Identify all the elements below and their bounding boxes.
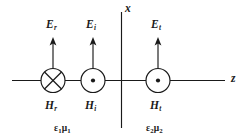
transmitted-h-label: Ht [150,100,161,112]
medium-2-mu-subscript: 2 [159,127,163,134]
medium-2-label: ε2μ2 [146,124,163,134]
reflected-e-label: Er [46,19,56,31]
transmitted-e-subscript: t [159,24,161,32]
transmitted-h-symbol: H [150,99,159,111]
incident-e-subscript: i [94,24,96,32]
medium-2-epsilon-subscript: 2 [150,127,154,134]
z-axis-label: z [231,73,235,85]
incident-e-symbol: E [86,18,94,30]
medium-1-epsilon-subscript: 1 [58,127,62,134]
transmitted-h-dot [156,78,160,82]
incident-wave-group [81,37,105,93]
reflected-h-subscript: r [54,105,57,113]
wave-interface-diagram: x z Er Ei Et Hr Hi Ht ε1μ1 ε2μ2 [0,0,246,140]
transmitted-wave-group [146,37,170,93]
incident-h-dot [91,78,95,82]
medium-1-label: ε1μ1 [54,124,71,134]
incident-h-symbol: H [85,99,94,111]
reflected-wave-group [41,37,65,93]
transmitted-e-label: Et [151,19,161,31]
diagram-canvas [0,0,246,140]
incident-e-label: Ei [86,19,96,31]
transmitted-e-symbol: E [151,18,159,30]
reflected-h-symbol: H [45,99,54,111]
x-axis-label: x [125,3,131,15]
incident-h-label: Hi [85,100,96,112]
reflected-e-symbol: E [46,18,54,30]
medium-1-mu-subscript: 1 [67,127,71,134]
transmitted-h-subscript: t [159,105,161,113]
incident-h-subscript: i [94,105,96,113]
reflected-e-subscript: r [54,24,57,32]
reflected-h-label: Hr [45,100,57,112]
